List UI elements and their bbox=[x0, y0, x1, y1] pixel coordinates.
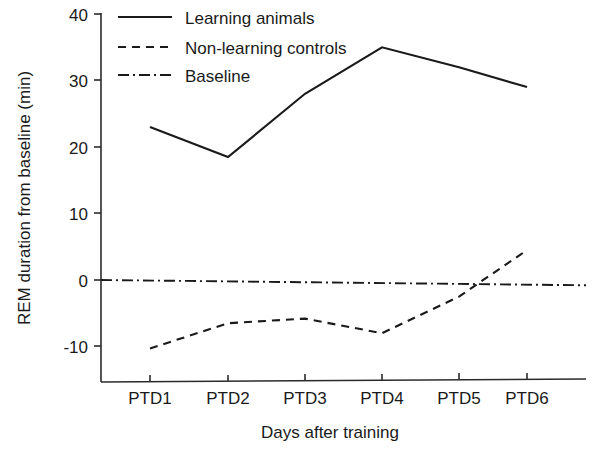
y-axis-title: REM duration from baseline (min) bbox=[15, 71, 34, 325]
x-tick-label-ptd1: PTD1 bbox=[128, 389, 171, 408]
y-tick-label-10: 10 bbox=[69, 205, 88, 224]
y-tick-label-30: 30 bbox=[69, 72, 88, 91]
x-tick-label-ptd5: PTD5 bbox=[437, 389, 480, 408]
x-axis-title: Days after training bbox=[261, 423, 399, 442]
x-tick-label-ptd2: PTD2 bbox=[206, 389, 249, 408]
x-tick-label-ptd6: PTD6 bbox=[505, 389, 548, 408]
y-tick-label-0: 0 bbox=[79, 272, 88, 291]
legend-label-learning-animals: Learning animals bbox=[185, 9, 314, 28]
chart-figure: 40 30 20 10 0 -10 REM duration from base… bbox=[0, 0, 594, 458]
line-chart-svg: 40 30 20 10 0 -10 REM duration from base… bbox=[0, 0, 594, 458]
legend-label-baseline: Baseline bbox=[185, 67, 250, 86]
x-tick-label-ptd4: PTD4 bbox=[360, 389, 403, 408]
y-tick-label-minus10: -10 bbox=[63, 338, 88, 357]
y-tick-label-20: 20 bbox=[69, 139, 88, 158]
y-tick-label-40: 40 bbox=[69, 6, 88, 25]
x-tick-label-ptd3: PTD3 bbox=[283, 389, 326, 408]
legend-label-non-learning-controls: Non-learning controls bbox=[185, 39, 347, 58]
